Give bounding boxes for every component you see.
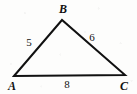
triangle-figure: A B C 5 6 8	[0, 0, 137, 94]
side-length-label-ac: 8	[64, 79, 70, 90]
vertex-label-a: A	[8, 80, 16, 92]
side-length-label-ab: 5	[26, 37, 32, 48]
vertex-label-b: B	[59, 3, 67, 15]
vertex-label-c: C	[120, 80, 128, 92]
triangle-outline	[14, 20, 125, 76]
side-length-label-bc: 6	[89, 32, 95, 43]
